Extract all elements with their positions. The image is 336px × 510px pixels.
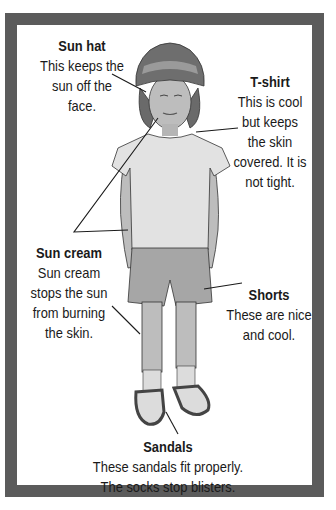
shorts (128, 248, 212, 306)
left-sock (143, 370, 161, 392)
label-title: Shorts (220, 285, 318, 305)
right-sandal (174, 386, 209, 415)
label-description: This keeps the sun off the face. (30, 56, 133, 116)
label-description: This is cool but keeps the skin covered.… (225, 92, 314, 192)
label-title: Sandals (75, 437, 261, 457)
label-title: Sun hat (30, 36, 133, 56)
label-description: These sandals fit properly. The socks st… (75, 457, 261, 497)
label-shorts: Shorts These are nice and cool. (220, 285, 318, 345)
right-leg (176, 302, 196, 368)
right-sock (177, 366, 195, 388)
left-leg (142, 302, 162, 372)
label-sun-hat: Sun hat This keeps the sun off the face. (30, 36, 133, 116)
left-sandal (136, 390, 164, 424)
label-title: T-shirt (225, 72, 314, 92)
label-tshirt: T-shirt This is cool but keeps the skin … (225, 72, 314, 192)
label-description: Sun cream stops the sun from burning the… (22, 263, 117, 343)
label-title: Sun cream (22, 243, 117, 263)
label-sandals: Sandals These sandals fit properly. The … (75, 437, 261, 497)
label-description: These are nice and cool. (220, 305, 318, 345)
label-sun-cream: Sun cream Sun cream stops the sun from b… (22, 243, 117, 343)
leader-sandals (166, 412, 178, 434)
